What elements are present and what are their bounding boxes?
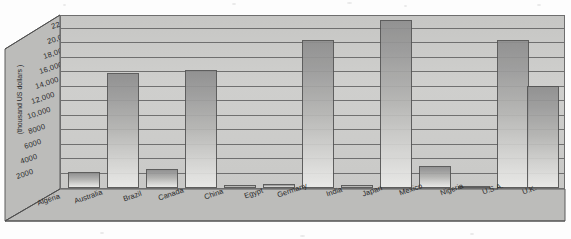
bar-germany[interactable] [302,40,334,188]
bar-canada[interactable] [185,70,217,188]
y-axis-title: (thousand US dollars ) [16,50,23,150]
bar-brazil[interactable] [146,169,178,188]
bar-chart-3d: (thousand US dollars ) 2000 4000 6000 80… [0,0,571,239]
bar-australia[interactable] [107,73,139,188]
bar-mexico[interactable] [419,166,451,188]
bar-algeria[interactable] [68,172,100,188]
bar-china[interactable] [224,185,256,188]
gridline [61,28,564,29]
bar-uk[interactable] [527,86,559,188]
bar-usa[interactable] [497,40,529,188]
plot-area [60,15,565,189]
bar-japan[interactable] [380,20,412,188]
